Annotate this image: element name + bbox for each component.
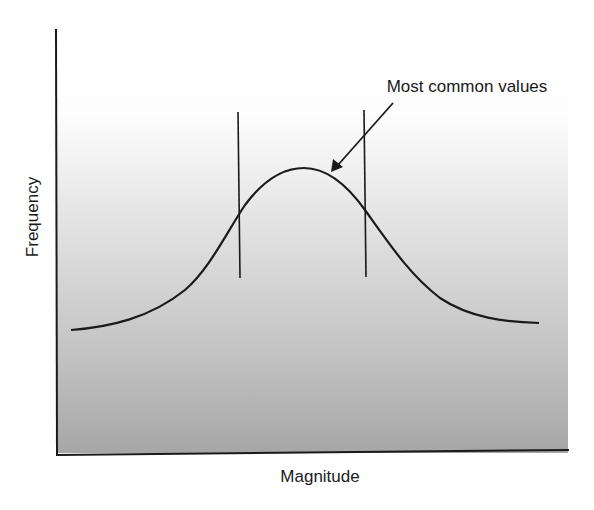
y-axis-label: Frequency bbox=[23, 177, 43, 257]
annotation-label: Most common values bbox=[387, 77, 548, 97]
plot-area-background bbox=[57, 40, 568, 453]
x-axis-label: Magnitude bbox=[280, 467, 359, 487]
y-axis bbox=[56, 29, 57, 455]
